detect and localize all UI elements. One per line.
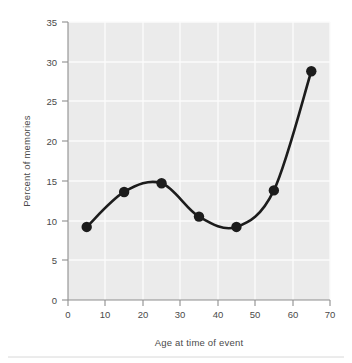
y-tick-label: 30 (46, 57, 57, 68)
y-tick-label: 20 (46, 136, 57, 147)
x-tick-label: 60 (288, 309, 299, 320)
x-tick-label: 20 (138, 309, 149, 320)
data-point (306, 66, 316, 76)
x-axis-title: Age at time of event (155, 337, 244, 348)
x-tick-label: 70 (325, 309, 336, 320)
data-point (119, 187, 129, 197)
x-tick-label: 40 (213, 309, 224, 320)
y-tick-label: 5 (52, 255, 57, 266)
y-tick-label: 15 (46, 176, 57, 187)
data-point (269, 185, 279, 195)
y-tick-label: 10 (46, 216, 57, 227)
y-axis-title: Percent of memories (21, 115, 32, 206)
data-point (82, 222, 92, 232)
x-tick-label: 30 (175, 309, 186, 320)
x-tick-label: 0 (65, 309, 70, 320)
y-tick-label: 35 (46, 17, 57, 28)
memories-by-age-chart: 35 30 25 20 15 10 5 0 0 10 20 30 40 50 6… (0, 0, 352, 363)
x-tick-label: 50 (250, 309, 261, 320)
data-point (231, 222, 241, 232)
y-tick-label: 0 (52, 295, 57, 306)
data-point (194, 211, 204, 221)
y-tick-label: 25 (46, 96, 57, 107)
plot-area-background (68, 22, 330, 300)
data-point (156, 178, 166, 188)
x-tick-label: 10 (100, 309, 111, 320)
